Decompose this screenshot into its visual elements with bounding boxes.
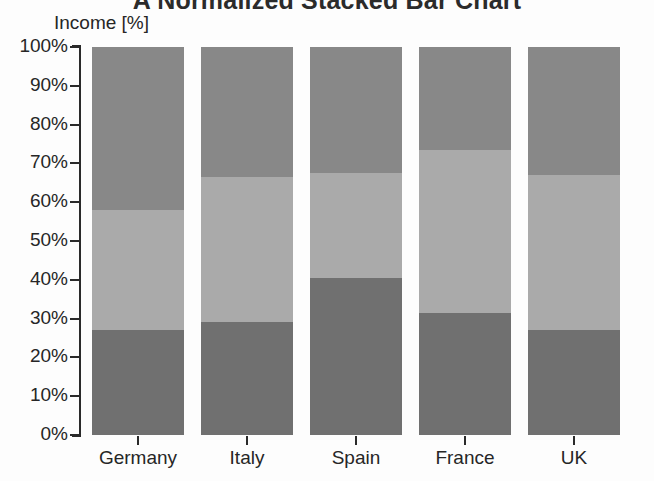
x-axis-label-france: France — [435, 447, 494, 469]
y-tick-80 — [70, 124, 80, 126]
y-tick-0 — [70, 434, 80, 436]
x-tick-germany — [137, 436, 139, 445]
bar-segment-uk-top-segment[interactable] — [528, 47, 620, 175]
y-tick-label-50: 50% — [2, 229, 68, 251]
bar-segment-france-middle-segment[interactable] — [419, 150, 511, 313]
bar-segment-germany-middle-segment[interactable] — [92, 210, 184, 330]
bar-segment-spain-middle-segment[interactable] — [310, 173, 402, 278]
y-tick-label-100: 100% — [2, 35, 68, 57]
y-tick-10 — [70, 395, 80, 397]
x-axis-label-germany: Germany — [99, 447, 177, 469]
y-tick-100 — [70, 46, 80, 48]
plot-area — [80, 47, 654, 435]
x-axis-label-italy: Italy — [230, 447, 265, 469]
bar-spain[interactable] — [310, 47, 402, 435]
y-tick-50 — [70, 240, 80, 242]
x-tick-italy — [246, 436, 248, 445]
bar-france[interactable] — [419, 47, 511, 435]
bar-segment-france-bottom-segment[interactable] — [419, 313, 511, 435]
y-tick-label-70: 70% — [2, 151, 68, 173]
y-tick-60 — [70, 201, 80, 203]
y-tick-label-0: 0% — [2, 423, 68, 445]
y-tick-40 — [70, 279, 80, 281]
bar-germany[interactable] — [92, 47, 184, 435]
chart-container: A Normalized Stacked Bar Chart Income [%… — [0, 0, 654, 481]
y-tick-30 — [70, 318, 80, 320]
x-axis-label-uk: UK — [561, 447, 587, 469]
x-tick-spain — [355, 436, 357, 445]
bar-segment-italy-middle-segment[interactable] — [201, 177, 293, 323]
y-axis-title: Income [%] — [54, 12, 149, 34]
bar-segment-spain-top-segment[interactable] — [310, 47, 402, 173]
bar-segment-italy-bottom-segment[interactable] — [201, 322, 293, 435]
y-tick-label-20: 20% — [2, 345, 68, 367]
bar-segment-france-top-segment[interactable] — [419, 47, 511, 150]
y-tick-label-30: 30% — [2, 307, 68, 329]
bar-segment-germany-top-segment[interactable] — [92, 47, 184, 210]
bar-uk[interactable] — [528, 47, 620, 435]
x-tick-france — [464, 436, 466, 445]
y-tick-90 — [70, 85, 80, 87]
y-tick-label-10: 10% — [2, 384, 68, 406]
bar-italy[interactable] — [201, 47, 293, 435]
x-tick-uk — [573, 436, 575, 445]
bar-segment-germany-bottom-segment[interactable] — [92, 330, 184, 435]
bar-segment-uk-middle-segment[interactable] — [528, 175, 620, 330]
bar-segment-spain-bottom-segment[interactable] — [310, 278, 402, 435]
y-tick-20 — [70, 356, 80, 358]
x-axis-label-spain: Spain — [332, 447, 381, 469]
bar-segment-uk-bottom-segment[interactable] — [528, 330, 620, 435]
y-tick-label-60: 60% — [2, 190, 68, 212]
y-tick-label-80: 80% — [2, 113, 68, 135]
bar-segment-italy-top-segment[interactable] — [201, 47, 293, 177]
y-tick-label-90: 90% — [2, 74, 68, 96]
y-tick-label-40: 40% — [2, 268, 68, 290]
y-tick-70 — [70, 162, 80, 164]
